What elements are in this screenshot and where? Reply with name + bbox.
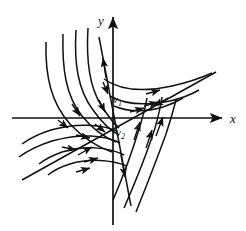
- arrow-ur-1: [146, 90, 160, 94]
- trajectories-upper-left: [46, 28, 119, 152]
- arrow-ll-4: [76, 168, 90, 172]
- separatrix-group: [22, 37, 216, 206]
- eigenvector-label-v2: v2: [116, 127, 125, 141]
- x-axis-label: x: [230, 112, 236, 125]
- trajectory-ur-1: [104, 73, 212, 90]
- eigenvector-label-v1: v1: [113, 94, 122, 108]
- y-axis-label: y: [98, 14, 104, 27]
- arrow-ul-1: [99, 100, 105, 112]
- trajectory-ll-4: [48, 160, 127, 175]
- v2-subscript: 2: [121, 132, 125, 141]
- v1-subscript: 1: [118, 99, 122, 108]
- phase-portrait-figure: y x v1 v2: [0, 0, 246, 231]
- axes-group: [12, 17, 222, 225]
- trajectory-ul-3: [87, 28, 119, 128]
- phase-portrait-canvas: [0, 0, 246, 231]
- trajectories-lower-left: [19, 125, 127, 175]
